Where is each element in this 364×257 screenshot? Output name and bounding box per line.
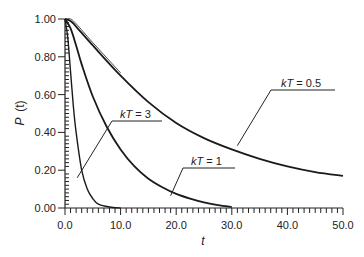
series-annotations: kT = 0.5kT = 1kT = 3 xyxy=(77,77,335,196)
chart: 0.000.200.400.600.801.00 0.010.020.030.0… xyxy=(0,0,364,257)
x-axis-ticks: 0.010.020.030.040.050.0 xyxy=(57,208,353,231)
y-tick-label: 0.00 xyxy=(35,202,56,214)
x-tick-label: 40.0 xyxy=(277,219,298,231)
x-tick-label: 50.0 xyxy=(332,219,353,231)
series-lines xyxy=(65,19,343,208)
annotation-label: kT = 0.5 xyxy=(281,77,321,89)
y-tick-label: 1.00 xyxy=(35,13,56,25)
y-tick-label: 0.20 xyxy=(35,164,56,176)
x-tick-label: 20.0 xyxy=(165,219,186,231)
annotation-leader xyxy=(77,121,112,178)
x-tick-label: 30.0 xyxy=(221,219,242,231)
svg-text:P (t): P (t) xyxy=(13,100,27,125)
series-line-kt-0-5 xyxy=(65,19,343,176)
annotation-leader xyxy=(171,168,183,196)
y-axis-label-t: (t) xyxy=(13,100,27,111)
x-tick-label: 0.0 xyxy=(57,219,72,231)
x-axis-label: t xyxy=(201,234,205,248)
y-tick-label: 0.60 xyxy=(35,89,56,101)
x-tick-label: 10.0 xyxy=(110,219,131,231)
annotation-label: kT = 1 xyxy=(191,155,222,167)
y-axis-label-p: P xyxy=(13,118,27,126)
y-tick-label: 0.40 xyxy=(35,126,56,138)
y-axis-ticks: 0.000.200.400.600.801.00 xyxy=(35,13,69,214)
y-tick-label: 0.80 xyxy=(35,51,56,63)
annotation-leader xyxy=(237,90,271,146)
annotation-label: kT = 3 xyxy=(120,108,151,120)
series-line-kt-3 xyxy=(65,19,121,208)
y-axis-label: P (t) xyxy=(13,100,27,125)
